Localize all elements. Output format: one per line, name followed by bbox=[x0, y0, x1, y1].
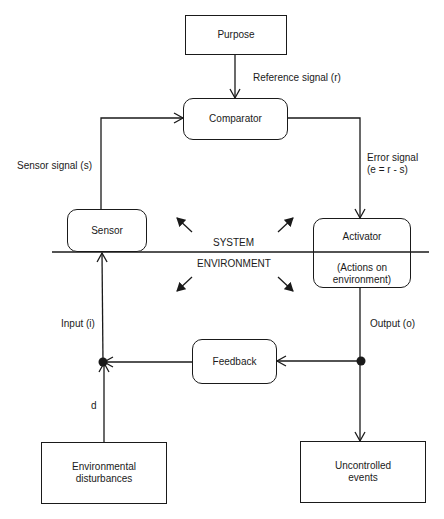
arrow-up-right-icon bbox=[278, 218, 293, 232]
activator-sublabel-1: (Actions on bbox=[337, 262, 387, 274]
input-label: Input (i) bbox=[61, 318, 95, 330]
purpose-box: Purpose bbox=[185, 15, 287, 55]
output-label: Output (o) bbox=[370, 318, 415, 330]
error-signal-label-2: (e = r - s) bbox=[367, 164, 408, 176]
environment-label: ENVIRONMENT bbox=[197, 258, 271, 270]
uncontrolled-events-line1: Uncontrolled bbox=[335, 460, 391, 472]
feedback-label: Feedback bbox=[213, 356, 257, 368]
environmental-disturbances-box: Environmental disturbances bbox=[41, 442, 167, 504]
env-disturbances-line2: disturbances bbox=[76, 473, 133, 485]
sensor-signal-label: Sensor signal (s) bbox=[17, 160, 92, 172]
env-disturbances-line1: Environmental bbox=[72, 461, 136, 473]
error-signal-label-1: Error signal bbox=[367, 152, 418, 164]
error-signal-arrow bbox=[288, 118, 360, 218]
comparator-label: Comparator bbox=[209, 113, 262, 125]
arrow-up-left-icon bbox=[177, 218, 192, 232]
activator-sublabel-2: environment) bbox=[333, 274, 391, 286]
reference-signal-label: Reference signal (r) bbox=[253, 72, 341, 84]
comparator-box: Comparator bbox=[183, 98, 288, 140]
arrow-down-left-icon bbox=[177, 277, 192, 291]
feedback-box: Feedback bbox=[192, 339, 277, 384]
input-arrow bbox=[102, 253, 103, 362]
disturbance-label: d bbox=[91, 400, 97, 412]
activator-label: Activator bbox=[343, 231, 382, 243]
sensor-box: Sensor bbox=[67, 209, 147, 252]
arrow-down-right-icon bbox=[278, 277, 293, 291]
sensor-signal-arrow bbox=[101, 118, 183, 209]
purpose-label: Purpose bbox=[217, 29, 254, 41]
sensor-label: Sensor bbox=[91, 225, 123, 237]
activator-box: Activator (Actions on environment) bbox=[313, 218, 411, 288]
uncontrolled-events-line2: events bbox=[348, 472, 377, 484]
output-junction-dot bbox=[357, 357, 366, 366]
input-junction-dot bbox=[99, 358, 108, 367]
uncontrolled-events-box: Uncontrolled events bbox=[300, 441, 426, 503]
system-label: SYSTEM bbox=[213, 237, 254, 249]
